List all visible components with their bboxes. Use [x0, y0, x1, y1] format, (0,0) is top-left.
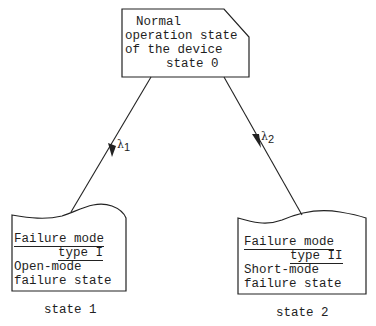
state-1-heading-line-2: type I	[58, 246, 103, 261]
transition-rate-1-label: λ1	[117, 138, 130, 153]
state-1-caption: state 1	[44, 303, 97, 317]
transition-edge-2	[224, 77, 302, 215]
state-2-desc-line-1: Short-mode	[244, 263, 319, 277]
transition-rate-2-label: λ2	[261, 130, 274, 145]
state-1-desc-line-1: Open-mode	[14, 260, 82, 274]
state-0-line-1: Normal	[136, 15, 181, 29]
state-0-line-3: of the device	[125, 43, 223, 57]
state-1-heading-line-1: Failure mode	[14, 232, 104, 247]
arrowhead-1-icon	[108, 143, 116, 157]
state-2-heading-line-2: type II	[290, 249, 343, 264]
state-0-line-2: operation state	[125, 29, 238, 43]
state-2-desc-line-2: failure state	[244, 277, 342, 291]
state-2-caption: state 2	[276, 306, 329, 320]
arrowhead-2-icon	[252, 134, 261, 148]
state-1-desc-line-2: failure state	[14, 274, 112, 288]
state-2-heading-line-1: Failure mode	[244, 235, 334, 250]
state-0-line-4: state 0	[166, 57, 219, 71]
